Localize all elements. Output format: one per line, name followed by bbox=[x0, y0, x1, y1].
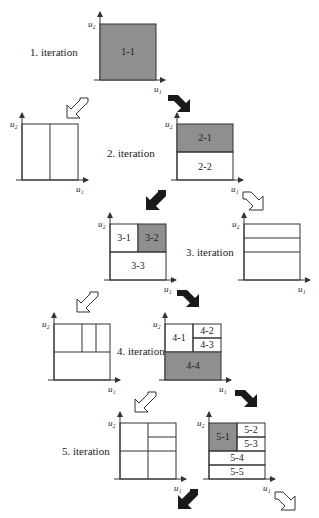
y-axis-label: u₂ bbox=[98, 219, 106, 229]
iteration-2-label: 2. iteration bbox=[107, 147, 155, 159]
x-axis-label: u₁ bbox=[108, 384, 116, 394]
filled-arrow-icon bbox=[235, 390, 257, 407]
cell-label: 4-1 bbox=[172, 332, 185, 343]
y-axis-label: u₂ bbox=[10, 119, 18, 129]
cell-label: 2-1 bbox=[198, 132, 211, 143]
y-axis-label: u₂ bbox=[165, 119, 173, 129]
partition-diagram: 1. iteration u₂ u₁ 1-1 u₂ u₁ 2. iteratio… bbox=[0, 0, 319, 518]
cell-label: 5-3 bbox=[244, 438, 257, 449]
cell-label: 2-2 bbox=[198, 161, 211, 172]
x-axis-label: u₁ bbox=[174, 483, 182, 493]
iteration-3-label: 3. iteration bbox=[186, 246, 234, 258]
hollow-arrow-icon bbox=[67, 98, 88, 118]
cell-label: 5-2 bbox=[244, 424, 257, 435]
plot-5-accepted: u₂ u₁ 5-1 5-2 5-3 5-4 5-5 bbox=[197, 412, 275, 493]
plot-5-rejected: u₂ u₁ bbox=[108, 412, 186, 493]
cell-label: 3-3 bbox=[131, 260, 144, 271]
filled-arrow-icon bbox=[168, 95, 190, 112]
y-axis-label: u₂ bbox=[153, 319, 161, 329]
plot-4-accepted: u₂ u₁ 4-1 4-2 4-3 4-4 bbox=[153, 313, 231, 394]
cell-label: 4-4 bbox=[186, 360, 199, 371]
y-axis-label: u₂ bbox=[232, 219, 240, 229]
hollow-arrow-icon bbox=[135, 392, 156, 412]
x-axis-label: u₁ bbox=[219, 384, 227, 394]
hollow-arrow-icon bbox=[275, 492, 295, 510]
iteration-2: u₂ u₁ 2. iteration u₂ u₁ 2-1 2-2 bbox=[10, 113, 243, 194]
plot-3-rejected: u₂ u₁ bbox=[232, 213, 310, 294]
cell-label: 4-2 bbox=[200, 325, 213, 336]
iteration-5: 5. iteration u₂ u₁ u₂ u₁ 5-1 5-2 5-3 5-4 bbox=[62, 412, 275, 493]
iteration-3: u₂ u₁ 3-1 3-2 3-3 3. iteration u₂ u₁ bbox=[98, 213, 310, 294]
y-axis-label: u₂ bbox=[108, 418, 116, 428]
x-axis-label: u₁ bbox=[76, 184, 84, 194]
plot-4-rejected: u₂ u₁ bbox=[42, 313, 120, 394]
cell-label: 3-2 bbox=[145, 232, 158, 243]
x-axis-label: u₁ bbox=[263, 483, 271, 493]
plot-2-accepted: u₂ u₁ 2-1 2-2 bbox=[165, 113, 243, 194]
cell-label: 4-3 bbox=[200, 339, 213, 350]
plot-3-accepted: u₂ u₁ 3-1 3-2 3-3 bbox=[98, 213, 176, 294]
iteration-5-label: 5. iteration bbox=[62, 445, 110, 457]
iteration-1-label: 1. iteration bbox=[30, 46, 78, 58]
x-axis-label: u₁ bbox=[154, 84, 162, 94]
iteration-4: u₂ u₁ 4. iteration u₂ u₁ 4-1 4-2 4-3 4-4 bbox=[42, 313, 231, 394]
x-axis-label: u₁ bbox=[231, 184, 239, 194]
y-axis-label: u₂ bbox=[197, 418, 205, 428]
hollow-arrow-icon bbox=[77, 292, 98, 312]
y-axis-label: u₂ bbox=[88, 19, 96, 29]
cell-label: 3-1 bbox=[117, 232, 130, 243]
filled-arrow-icon bbox=[177, 290, 199, 307]
filled-arrow-icon bbox=[146, 190, 166, 210]
x-axis-label: u₁ bbox=[298, 284, 306, 294]
plot-2-rejected: u₂ u₁ bbox=[10, 113, 88, 194]
cell-label: 1-1 bbox=[121, 46, 134, 57]
iteration-4-label: 4. iteration bbox=[117, 345, 165, 357]
plot-1-1: u₂ u₁ 1-1 bbox=[88, 12, 165, 94]
cell-label: 5-1 bbox=[216, 431, 229, 442]
hollow-arrow-icon bbox=[243, 192, 263, 210]
x-axis-label: u₁ bbox=[164, 284, 172, 294]
iteration-1: 1. iteration u₂ u₁ 1-1 bbox=[30, 12, 165, 94]
cell-label: 5-4 bbox=[230, 452, 243, 463]
y-axis-label: u₂ bbox=[42, 319, 50, 329]
cell-label: 5-5 bbox=[230, 466, 243, 477]
